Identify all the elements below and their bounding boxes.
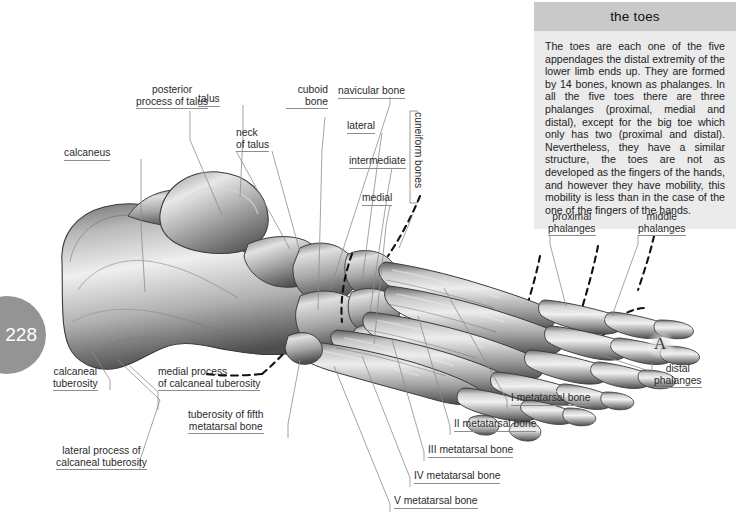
- label-neck-of-talus: neck of talus: [236, 127, 269, 152]
- label-calcaneus: calcaneus: [64, 147, 110, 161]
- page-number: 228: [5, 324, 37, 346]
- leader-medial-process: [130, 366, 158, 410]
- label-intermediate-cuneiform: intermediate: [349, 155, 406, 169]
- label-medial-process-of-calcaneal-tuberosity: medial process of calcaneal tuberosity: [158, 366, 260, 391]
- label-tuberosity-of-fifth-metatarsal-bone: tuberosity of fifth metatarsal bone: [188, 409, 264, 434]
- tuberosity-of-fifth-metatarsal-shape: [285, 333, 322, 365]
- leader-tuberosity-fifth: [288, 360, 300, 438]
- info-panel-body: The toes are each one of the five append…: [534, 31, 736, 229]
- label-calcaneal-tuberosity: calcaneal tuberosity: [53, 366, 98, 391]
- label-metatarsal-2: II metatarsal bone: [454, 418, 536, 432]
- leader-metatarsal-5: [334, 366, 390, 512]
- info-panel-title: the toes: [534, 2, 736, 31]
- label-cuneiform-bones: cuneiform bones: [413, 112, 424, 188]
- label-middle-phalanges: middle phalanges: [638, 211, 686, 236]
- cuneiform-bracket-leader: [399, 214, 413, 248]
- label-metatarsal-4: IV metatarsal bone: [414, 470, 500, 484]
- leader-proximal-phalanges: [550, 235, 566, 306]
- label-metatarsal-3: III metatarsal bone: [428, 444, 513, 458]
- label-proximal-phalanges: proximal phalanges: [548, 211, 596, 236]
- label-distal-phalanges: distal phalanges: [654, 363, 702, 388]
- label-metatarsal-1: I metatarsal bone: [511, 392, 591, 406]
- label-navicular-bone: navicular bone: [338, 85, 405, 99]
- figure-marker-a: A: [654, 334, 666, 354]
- label-lateral-cuneiform: lateral: [347, 120, 375, 134]
- leader-middle-phalanges: [612, 235, 638, 316]
- label-cuboid-bone: cuboid bone: [286, 84, 328, 109]
- label-talus: talus: [198, 93, 220, 107]
- info-panel: the toes The toes are each one of the fi…: [534, 2, 736, 229]
- anatomy-plate: 228 the toes The toes are each one of th…: [0, 0, 742, 530]
- label-lateral-process-of-calcaneal-tuberosity: lateral process of calcaneal tuberosity: [56, 445, 147, 470]
- label-medial-cuneiform: medial: [362, 192, 392, 206]
- label-metatarsal-5: V metatarsal bone: [394, 495, 478, 509]
